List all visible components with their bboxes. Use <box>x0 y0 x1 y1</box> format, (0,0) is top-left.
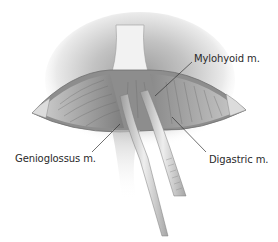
label-digastric: Digastric m. <box>209 154 268 165</box>
label-mylohyoid: Mylohyoid m. <box>194 53 260 64</box>
retracted-skin-strip <box>112 25 148 72</box>
surgical-illustration <box>0 0 278 242</box>
label-genioglossus: Genioglossus m. <box>15 153 96 164</box>
